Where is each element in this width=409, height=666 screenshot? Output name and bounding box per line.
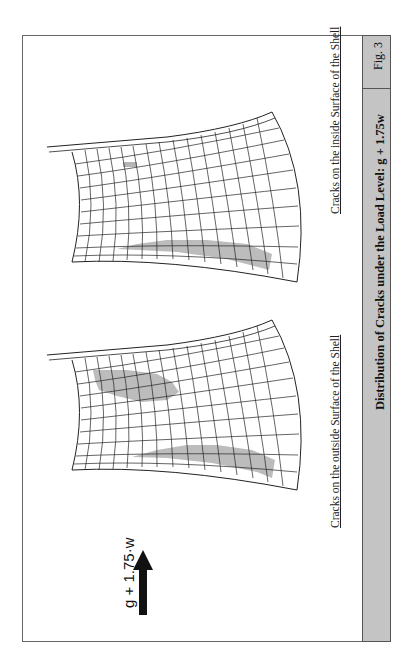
- crack-region-lower-band: [132, 445, 275, 478]
- shell-inside-surface: [47, 112, 301, 282]
- figure-number: Fig. 3: [371, 42, 386, 70]
- caption-inside-surface: Cracks on the inside Surface of the Shel…: [329, 27, 341, 214]
- figure-title: Distribution of Cracks under the Load Le…: [373, 114, 388, 410]
- caption-outside-surface: Cracks on the outside Surface of the She…: [329, 335, 341, 528]
- crack-region-upper-patch: [93, 370, 179, 402]
- shell-outside-surface: [47, 320, 301, 490]
- crack-region-small-patch: [123, 162, 137, 167]
- load-level-label: g + 1.75·w: [120, 538, 137, 608]
- shell-diagrams: [0, 0, 409, 666]
